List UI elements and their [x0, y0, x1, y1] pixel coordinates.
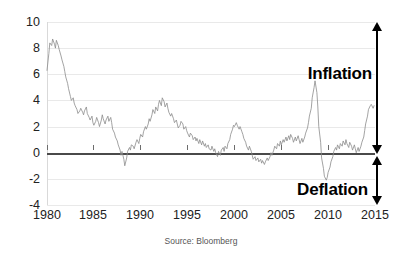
inflation-arrow-head-down-icon [372, 145, 382, 154]
inflation-arrow-shaft [376, 28, 378, 148]
deflation-arrow-head-down-icon [372, 196, 382, 205]
deflation-arrow-shaft [376, 162, 378, 199]
inflation-deflation-chart: 10 8 6 4 2 0 -2 -4 1980 1985 1990 1995 2… [0, 0, 402, 255]
deflation-label: Deflation [216, 180, 368, 200]
inflation-label: Inflation [220, 64, 372, 84]
series-inflation-rate [0, 0, 402, 255]
source-note: Source: Bloomberg [0, 236, 402, 246]
